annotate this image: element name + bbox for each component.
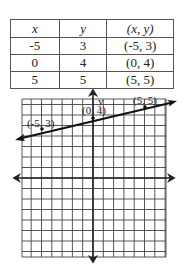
coordinate-graph: y (-5, 3) (0, 4) (5, 5) (0, 85, 191, 270)
y-axis-down-arrow-icon (90, 257, 96, 262)
table-header-row: x y (x, y) (11, 20, 174, 38)
point-label: (5, 5) (133, 94, 157, 107)
x-axis-right-arrow-icon (169, 175, 174, 181)
cell-y: 3 (59, 38, 107, 55)
table-row: -5 3 (-5, 3) (11, 38, 174, 55)
cell-x: 0 (11, 55, 60, 72)
point-0-4 (91, 116, 95, 120)
cell-y: 4 (59, 55, 107, 72)
table-row: 0 4 (0, 4) (11, 55, 174, 72)
x-axis (14, 175, 174, 181)
point-label: (-5, 3) (27, 117, 55, 130)
header-y: y (59, 20, 107, 38)
xy-table: x y (x, y) -5 3 (-5, 3) 0 4 (0, 4) 5 5 (… (10, 19, 174, 89)
point-label: (0, 4) (82, 104, 106, 117)
header-xy: (x, y) (107, 20, 174, 38)
x-axis-left-arrow-icon (14, 175, 19, 181)
cell-xy: (-5, 3) (107, 38, 174, 55)
cell-xy: (0, 4) (107, 55, 174, 72)
y-axis-up-arrow-icon (90, 90, 96, 95)
header-x: x (11, 20, 60, 38)
cell-x: -5 (11, 38, 60, 55)
